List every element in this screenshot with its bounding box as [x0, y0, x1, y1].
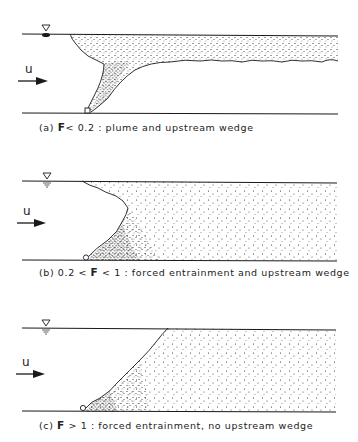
diagram-canvas: [0, 0, 358, 442]
water-level-icon: [42, 25, 50, 37]
caption-prefix: (b) 0.2 <: [39, 267, 87, 278]
flow-arrow-icon: [18, 77, 48, 85]
plume-region: [70, 34, 338, 112]
caption-panel-a: (a) F< 0.2 : plume and upstream wedge: [39, 121, 254, 133]
channel-bed-line: [22, 260, 337, 261]
panel-c: [16, 320, 336, 412]
flow-velocity-label: u: [25, 62, 33, 76]
flow-arrow-icon: [17, 219, 46, 227]
caption-condition: < 1 :: [102, 267, 128, 278]
caption-condition: < 0.2 :: [65, 122, 102, 133]
caption-condition: > 1 :: [68, 420, 94, 431]
entrainment-region: [84, 328, 336, 412]
flow-velocity-label: u: [23, 204, 31, 218]
water-level-icon: [42, 320, 50, 334]
caption-prefix: (a): [39, 122, 54, 133]
entrainment-region: [82, 181, 337, 260]
caption-panel-b: (b) 0.2 < F < 1 : forced entrainment and…: [39, 266, 350, 278]
panel-a: [18, 25, 338, 114]
froude-symbol: F: [57, 419, 65, 431]
caption-prefix: (c): [39, 420, 53, 431]
channel-bed-line: [22, 113, 338, 114]
source-icon: [85, 108, 90, 113]
caption-description: forced entrainment, no upstream wedge: [98, 420, 313, 431]
source-icon: [83, 255, 88, 260]
flow-arrow-icon: [16, 370, 45, 378]
froude-symbol: F: [91, 266, 99, 278]
caption-description: forced entrainment and upstream wedge: [132, 267, 350, 278]
caption-description: plume and upstream wedge: [106, 122, 254, 133]
water-level-icon: [43, 173, 51, 187]
caption-panel-c: (c) F > 1 : forced entrainment, no upstr…: [39, 419, 313, 431]
source-icon: [80, 405, 85, 410]
flow-velocity-label: u: [22, 355, 30, 369]
panel-b: [17, 173, 337, 261]
